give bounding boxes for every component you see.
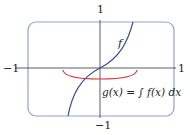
tick-label-bottom: −1 <box>95 120 111 131</box>
plot-frame <box>28 22 174 116</box>
tick-label-top: 1 <box>97 4 104 15</box>
plot-canvas <box>0 0 190 135</box>
g-curve-label: g(x) = ∫ f(x) dx <box>102 86 181 98</box>
tick-label-right: 1 <box>178 63 185 74</box>
f-curve-label: f <box>118 37 122 50</box>
tick-label-left: −1 <box>3 63 19 74</box>
f-curve <box>68 22 133 116</box>
